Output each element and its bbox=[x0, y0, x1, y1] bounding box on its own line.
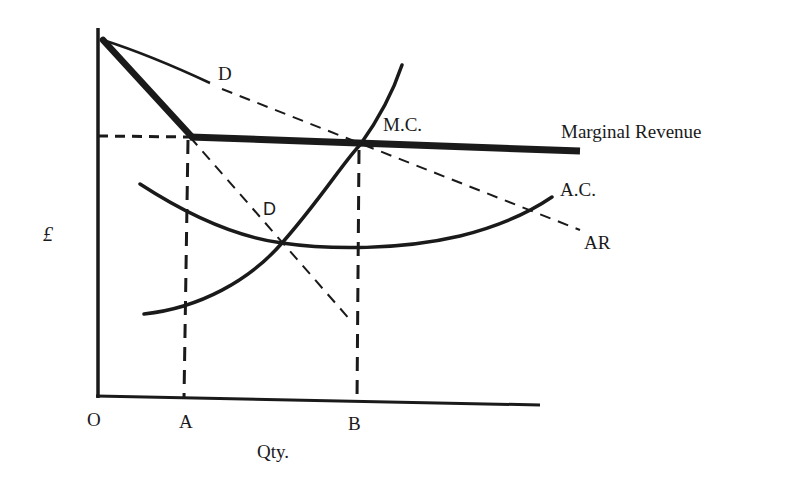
marginal-revenue-label: Marginal Revenue bbox=[561, 122, 702, 141]
demand-upper-label: D bbox=[218, 64, 232, 83]
economics-diagram bbox=[0, 0, 796, 485]
x-tick-b-label: B bbox=[348, 414, 361, 433]
quantity-b-dashed-line bbox=[357, 150, 359, 402]
demand-lower-label: D bbox=[263, 200, 276, 218]
marginal-cost-curve bbox=[144, 65, 402, 314]
marginal-revenue-steep-segment bbox=[103, 40, 192, 137]
marginal-cost-label: M.C. bbox=[383, 115, 422, 134]
origin-label: O bbox=[87, 410, 101, 429]
quantity-a-dashed-line bbox=[184, 140, 188, 398]
marginal-revenue-line bbox=[190, 137, 580, 151]
x-axis bbox=[96, 396, 540, 405]
x-axis-label: Qty. bbox=[257, 442, 289, 461]
y-axis-label: £ bbox=[43, 224, 53, 244]
average-cost-curve bbox=[140, 184, 552, 248]
x-tick-a-label: A bbox=[179, 412, 193, 431]
average-revenue-label: AR bbox=[584, 233, 610, 252]
average-cost-label: A.C. bbox=[560, 180, 596, 199]
price-dashed-line bbox=[98, 136, 190, 137]
